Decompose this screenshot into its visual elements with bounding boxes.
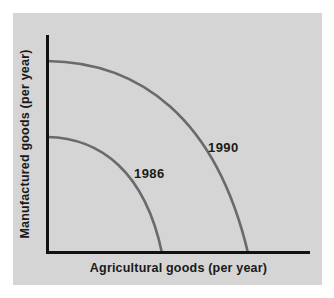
ppf-curve-1990 xyxy=(47,61,248,253)
x-axis-title: Agricultural goods (per year) xyxy=(47,261,310,275)
y-axis-title-container: Manufactured goods (per year) xyxy=(14,35,36,253)
curve-label-1986: 1986 xyxy=(134,166,165,181)
ppf-curve-1986 xyxy=(47,137,162,253)
y-axis-title: Manufactured goods (per year) xyxy=(18,49,32,238)
chart-plot-area xyxy=(0,0,334,298)
ppf-chart-figure: 1990 1986 Agricultural goods (per year) … xyxy=(0,0,334,298)
curve-label-1990: 1990 xyxy=(208,140,239,155)
